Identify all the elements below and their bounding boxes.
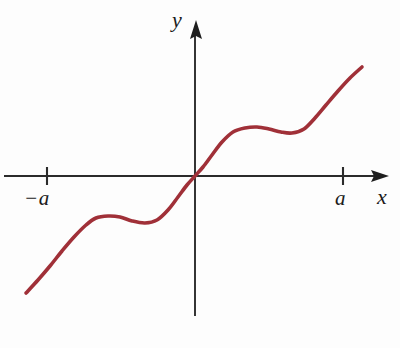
- x-axis-label: x: [377, 186, 387, 208]
- y-axis-label: y: [172, 9, 182, 31]
- y-axis-arrow-icon: [190, 20, 202, 39]
- graph-figure: y x −a a: [0, 0, 400, 348]
- tick-label-neg-a: −a: [24, 188, 50, 209]
- tick-label-pos-a: a: [335, 188, 346, 209]
- plot-canvas: [0, 0, 400, 348]
- function-curve: [26, 67, 362, 293]
